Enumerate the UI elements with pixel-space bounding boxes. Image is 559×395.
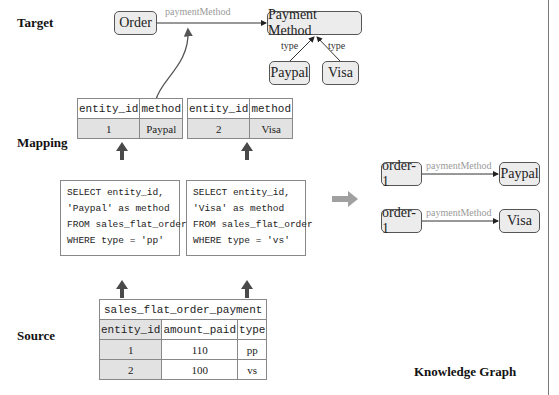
edge-label-type-visa: type bbox=[328, 40, 345, 51]
source-table-name: sales_flat_order_payment bbox=[100, 300, 267, 320]
edge-label-payment-method: paymentMethod bbox=[165, 6, 231, 17]
header-cell: method bbox=[140, 99, 183, 119]
sql-line: WHERE type = 'vs' bbox=[193, 233, 299, 249]
source-header-cell: amount_paid bbox=[162, 320, 238, 340]
node-paypal: Paypal bbox=[269, 61, 310, 85]
sql-query-visa: SELECT entity_id,'Visa' as methodFROM sa… bbox=[186, 180, 306, 256]
value-cell: 1 bbox=[78, 119, 140, 139]
kg-node-visa: Visa bbox=[499, 209, 540, 233]
up-arrow-4 bbox=[241, 280, 253, 298]
mapping-link-curve bbox=[156, 30, 188, 100]
mapping-result-table-1: entity_id method 1 Paypal bbox=[77, 98, 183, 139]
value-cell: 2 bbox=[188, 119, 250, 139]
source-table: sales_flat_order_payment entity_id amoun… bbox=[99, 299, 267, 380]
up-arrow-3 bbox=[116, 280, 128, 298]
transform-arrow bbox=[332, 191, 358, 207]
header-cell: entity_id bbox=[78, 99, 140, 119]
kg-edge-label-2: paymentMethod bbox=[426, 207, 492, 218]
sql-line: FROM sales_flat_order bbox=[193, 217, 299, 233]
kg-node-order-1-a: order-1 bbox=[381, 162, 422, 186]
source-cell: 110 bbox=[162, 340, 238, 360]
node-order: Order bbox=[114, 11, 157, 35]
source-header-cell: type bbox=[238, 320, 267, 340]
source-header-cell: entity_id bbox=[100, 320, 162, 340]
sql-line: 'Paypal' as method bbox=[67, 201, 173, 217]
sql-query-paypal: SELECT entity_id,'Paypal' as methodFROM … bbox=[60, 180, 180, 256]
value-cell: Visa bbox=[250, 119, 293, 139]
sql-line: FROM sales_flat_order bbox=[67, 217, 173, 233]
kg-node-paypal: Paypal bbox=[499, 162, 540, 186]
sql-line: 'Visa' as method bbox=[193, 201, 299, 217]
value-cell: Paypal bbox=[140, 119, 183, 139]
source-cell: 100 bbox=[162, 360, 238, 380]
header-cell: entity_id bbox=[188, 99, 250, 119]
sql-line: SELECT entity_id, bbox=[193, 185, 299, 201]
kg-edge-label-1: paymentMethod bbox=[426, 160, 492, 171]
sql-line: WHERE type = 'pp' bbox=[67, 233, 173, 249]
source-cell: 2 bbox=[100, 360, 162, 380]
header-cell: method bbox=[250, 99, 293, 119]
source-cell: pp bbox=[238, 340, 267, 360]
edge-label-type-paypal: type bbox=[281, 40, 298, 51]
source-cell: 1 bbox=[100, 340, 162, 360]
up-arrow-1 bbox=[116, 142, 128, 160]
sql-line: SELECT entity_id, bbox=[67, 185, 173, 201]
source-cell: vs bbox=[238, 360, 267, 380]
node-payment-method: Payment Method bbox=[267, 11, 362, 35]
node-visa: Visa bbox=[322, 61, 359, 85]
kg-node-order-1-b: order-1 bbox=[381, 209, 422, 233]
mapping-result-table-2: entity_id method 2 Visa bbox=[187, 98, 293, 139]
up-arrow-2 bbox=[241, 142, 253, 160]
